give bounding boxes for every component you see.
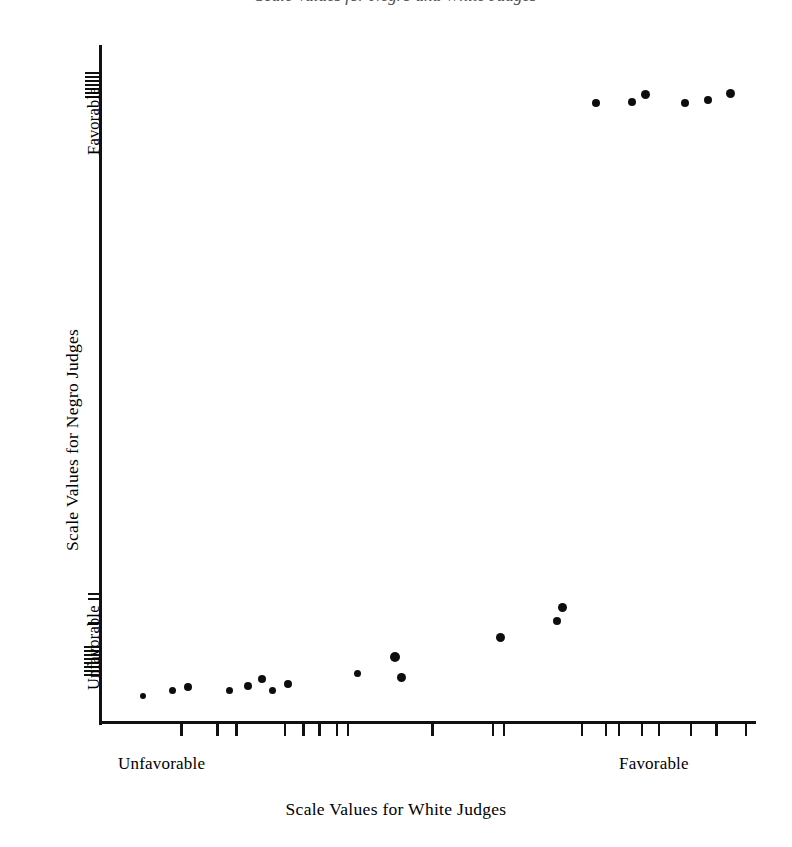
data-point <box>244 682 252 690</box>
y-tick <box>88 593 99 595</box>
x-tick <box>745 723 747 736</box>
scatter-plot-figure: Scale Values for Negro and White Judges … <box>0 0 792 847</box>
x-axis-title: Scale Values for White Judges <box>0 799 792 820</box>
x-tick <box>216 723 218 736</box>
x-tick <box>180 723 182 736</box>
data-point <box>184 683 192 691</box>
y-tick <box>85 84 99 86</box>
data-point <box>681 99 689 107</box>
y-tick <box>88 598 99 600</box>
x-tick <box>431 723 433 736</box>
x-tick <box>336 723 338 736</box>
x-tick <box>347 723 349 736</box>
x-tick <box>658 723 660 736</box>
cut-off-title-remnant: Scale Values for Negro and White Judges <box>0 0 792 6</box>
y-tick <box>85 80 99 82</box>
data-point <box>390 652 400 662</box>
y-axis-label-unfavorable: Unfavorable <box>84 605 104 690</box>
data-point <box>726 89 735 98</box>
x-tick <box>318 723 320 736</box>
x-tick <box>690 723 692 736</box>
data-point <box>284 680 292 688</box>
data-point <box>140 693 146 699</box>
data-point <box>397 673 406 682</box>
data-point <box>592 99 600 107</box>
data-point <box>354 670 361 677</box>
x-tick <box>605 723 607 736</box>
y-axis-label-favorable: Favorable <box>84 87 104 155</box>
data-point <box>258 675 266 683</box>
x-tick <box>492 723 494 736</box>
y-tick <box>85 76 99 78</box>
x-tick <box>235 723 237 736</box>
data-point <box>628 98 636 106</box>
x-tick <box>715 723 717 736</box>
x-tick <box>503 723 505 736</box>
data-point <box>496 633 505 642</box>
data-point <box>269 687 276 694</box>
y-tick <box>85 72 99 74</box>
data-point <box>558 603 567 612</box>
x-tick <box>618 723 620 736</box>
y-axis-title: Scale Values for Negro Judges <box>62 329 83 551</box>
data-point <box>169 687 176 694</box>
x-tick <box>581 723 583 736</box>
x-axis-label-favorable: Favorable <box>619 754 689 774</box>
x-tick <box>641 723 643 736</box>
data-point <box>226 687 233 694</box>
x-tick <box>302 723 304 736</box>
data-point <box>704 96 712 104</box>
data-point <box>553 617 561 625</box>
data-point <box>641 90 650 99</box>
x-axis-label-unfavorable: Unfavorable <box>118 754 205 774</box>
x-tick <box>284 723 286 736</box>
